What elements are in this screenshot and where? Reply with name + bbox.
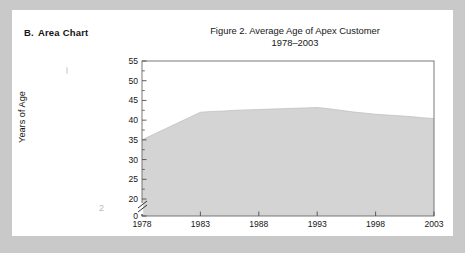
area-series-fill [142,108,434,216]
area-chart: Years of Age 02025303540455055 197819831… [0,0,465,253]
plot-canvas [0,0,465,253]
